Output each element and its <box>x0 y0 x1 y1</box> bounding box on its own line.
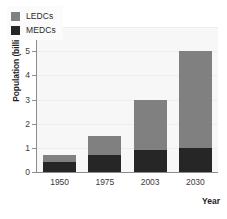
legend-item-medcs: MEDCs <box>11 23 56 37</box>
figure-panel-a: (a) Population (billions) 0123456 195019… <box>0 0 227 219</box>
y-tick-mark <box>32 100 37 101</box>
plot-area <box>37 27 218 172</box>
y-tick-mark <box>32 172 37 173</box>
bar-segment-medcs <box>179 148 212 172</box>
y-tick-label: 1 <box>16 144 30 153</box>
gridline <box>37 27 218 28</box>
bar-2030 <box>179 51 212 172</box>
x-tick-label: 1950 <box>37 177 83 187</box>
legend: LEDCsMEDCs <box>7 6 63 40</box>
y-tick-mark <box>32 124 37 125</box>
bar-segment-medcs <box>134 150 167 172</box>
x-tick-label: 2003 <box>127 177 173 187</box>
x-axis-line <box>36 172 218 173</box>
y-tick-mark <box>32 51 37 52</box>
bar-segment-ledcs <box>88 136 121 155</box>
y-tick-label: 3 <box>16 96 30 105</box>
bar-segment-ledcs <box>134 100 167 151</box>
y-tick-mark <box>32 148 37 149</box>
y-tick-label: 0 <box>16 168 30 177</box>
legend-label: MEDCs <box>26 25 56 35</box>
y-tick-label: 4 <box>16 71 30 80</box>
legend-label: LEDCs <box>26 11 53 21</box>
x-tick-label: 2030 <box>172 177 218 187</box>
bar-segment-ledcs <box>43 155 76 162</box>
bar-1975 <box>88 136 121 172</box>
y-tick-label: 2 <box>16 120 30 129</box>
y-tick-mark <box>32 75 37 76</box>
bar-1950 <box>43 155 76 172</box>
legend-swatch-icon <box>11 26 20 35</box>
x-tick-label: 1975 <box>82 177 128 187</box>
bar-segment-medcs <box>88 155 121 172</box>
legend-item-ledcs: LEDCs <box>11 9 56 23</box>
bar-2003 <box>134 100 167 173</box>
bar-segment-ledcs <box>179 51 212 148</box>
x-axis-label: Year <box>202 196 220 206</box>
y-tick-label: 5 <box>16 47 30 56</box>
bar-segment-medcs <box>43 162 76 172</box>
legend-swatch-icon <box>11 12 20 21</box>
